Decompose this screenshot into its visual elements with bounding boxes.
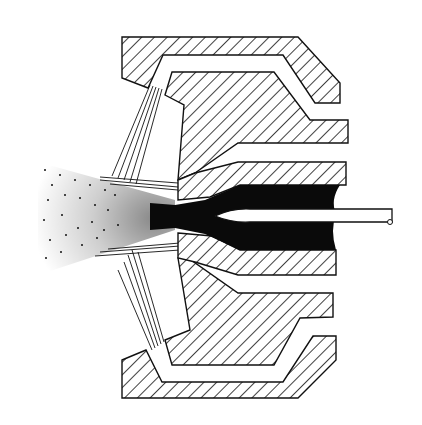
needle-end [388,220,393,225]
air-jets-lower [95,243,180,350]
nozzle-cross-section-diagram [0,0,422,425]
air-jets-upper [100,85,178,190]
needle [215,209,392,222]
